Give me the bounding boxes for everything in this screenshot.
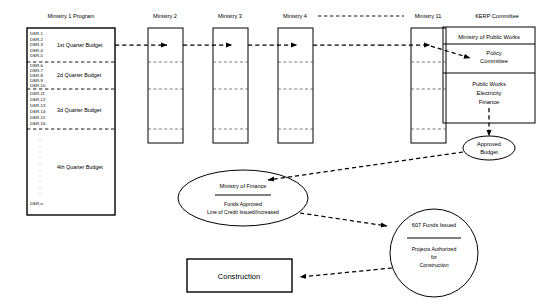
dsr-item: DSR-1 bbox=[30, 31, 44, 36]
approved-budget-label-line1: Approved bbox=[477, 141, 501, 147]
kerp-committee-header: KERP Committee bbox=[475, 13, 519, 19]
ministry4-box bbox=[278, 28, 313, 143]
quarter-label-3: 3d Quarter Budget bbox=[57, 107, 102, 113]
dsr-item: DSR-14 bbox=[30, 109, 46, 114]
quarter-label-1: 1st Quarter Budget bbox=[57, 42, 103, 48]
kerp-member-electricity: Electricity bbox=[477, 90, 502, 96]
ministry3-box bbox=[213, 28, 248, 143]
dsr-item: DSR-13 bbox=[30, 103, 46, 108]
column-header-ministry4: Ministry 4 bbox=[283, 13, 307, 19]
construction-label: Construction bbox=[218, 272, 261, 281]
column-header-ministry3: Ministry 3 bbox=[218, 13, 242, 19]
funds-line2: for bbox=[431, 254, 437, 260]
flow-arrow-finance-to-funds bbox=[300, 213, 387, 226]
dsr-item: DSR-10 bbox=[30, 83, 46, 88]
column-header-ministry1: Ministry 1 Program bbox=[48, 13, 95, 19]
dsr-continuation-dots bbox=[40, 134, 41, 195]
funds-issued-title: 607 Funds Issued bbox=[412, 222, 456, 228]
dsr-item: DSR-15 bbox=[30, 115, 46, 120]
kerp-member-finance: Finance bbox=[479, 99, 500, 105]
ministry-of-finance-ellipse bbox=[178, 170, 308, 226]
dsr-item: DSR-3 bbox=[30, 42, 44, 47]
flow-arrow-funds-to-construction bbox=[300, 268, 392, 277]
dsr-item: DSR-5 bbox=[30, 53, 44, 58]
quarter-label-2: 2d Quarter Budget bbox=[57, 72, 102, 78]
flow-arrow-m11-to-policy-committee bbox=[424, 44, 470, 58]
finance-line2: Line of Credit Issued/Increased bbox=[207, 209, 279, 215]
kerp-policy-committee-line2: Committee bbox=[480, 58, 508, 64]
kerp-policy-committee-line1: Policy bbox=[486, 50, 502, 56]
dsr-item: DSR-16 bbox=[30, 121, 46, 126]
flow-diagram: Ministry 1 Program Ministry 2 Ministry 3… bbox=[0, 0, 548, 306]
kerp-public-works-row: Ministry of Public Works bbox=[458, 34, 520, 40]
dsr-item: DSR-4 bbox=[30, 48, 44, 53]
dsr-item-last: DSR-n bbox=[30, 201, 44, 206]
funds-line3: Construction bbox=[419, 262, 448, 268]
funds-line1: Projects Authorized bbox=[412, 246, 457, 252]
kerp-member-public-works: Public Works bbox=[472, 81, 506, 87]
column-header-ministry2: Ministry 2 bbox=[153, 13, 177, 19]
dsr-item: DSR-2 bbox=[30, 37, 44, 42]
approved-budget-label-line2: Budget bbox=[480, 149, 498, 155]
quarter-label-4: 4th Quarter Budget bbox=[57, 164, 103, 170]
flow-arrow-budget-to-finance bbox=[268, 152, 463, 180]
finance-line1: Funds Approved bbox=[224, 201, 262, 207]
column-header-ministry11: Ministry 11 bbox=[415, 13, 442, 19]
diagram-canvas: Ministry 1 Program Ministry 2 Ministry 3… bbox=[0, 0, 548, 306]
dsr-item: DSR-11 bbox=[30, 91, 46, 96]
approved-budget-oval bbox=[463, 136, 515, 160]
finance-title: Ministry of Finance bbox=[220, 183, 267, 189]
dsr-item: DSR-12 bbox=[30, 97, 46, 102]
